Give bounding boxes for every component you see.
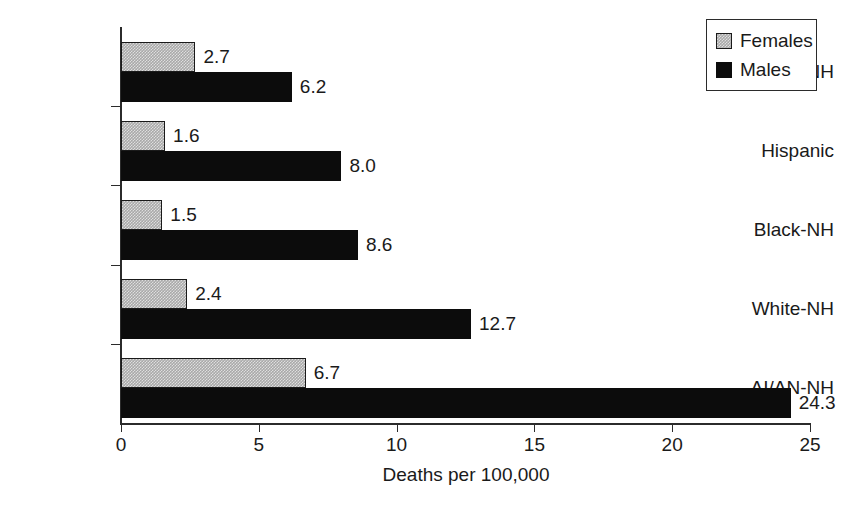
x-axis-title: Deaths per 100,000: [121, 464, 811, 486]
x-axis-tick: [810, 423, 811, 432]
bar-value-label: 8.0: [349, 155, 375, 177]
x-axis-tick: [259, 423, 260, 432]
bar-value-label: 6.7: [314, 362, 340, 384]
bar-value-label: 1.6: [173, 125, 199, 147]
category-label-white-nh: White-NH: [731, 298, 843, 320]
bar-males-white-nh[interactable]: [121, 309, 471, 339]
x-axis-tick: [121, 423, 122, 432]
bar-value-label: 8.6: [366, 234, 392, 256]
bar-females-a-pi-nh[interactable]: [121, 42, 195, 72]
legend-item-females[interactable]: Females: [716, 26, 816, 55]
x-axis-tick: [534, 423, 535, 432]
legend-label-males: Males: [740, 59, 791, 81]
black-swatch-icon: [716, 62, 732, 78]
y-axis-tick: [111, 106, 121, 107]
x-axis-tick: [672, 423, 673, 432]
y-axis-tick: [111, 344, 121, 345]
bar-value-label: 24.3: [799, 392, 836, 414]
category-label-black-nh: Black-NH: [731, 219, 843, 241]
bar-value-label: 12.7: [479, 313, 516, 335]
bar-males-black-nh[interactable]: [121, 230, 358, 260]
x-axis-tick-label: 10: [386, 434, 407, 456]
x-axis-tick-label: 25: [799, 434, 820, 456]
gray-swatch-icon: [716, 33, 732, 49]
bar-females-black-nh[interactable]: [121, 200, 162, 230]
bar-chart: A/PI-NH2.76.2Hispanic1.68.0Black-NH1.58.…: [0, 0, 843, 516]
x-axis-tick-label: 0: [116, 434, 127, 456]
bar-value-label: 6.2: [300, 76, 326, 98]
category-label-hispanic: Hispanic: [731, 140, 843, 162]
legend-item-males[interactable]: Males: [716, 55, 816, 84]
bar-males-a-pi-nh[interactable]: [121, 72, 292, 102]
bar-males-ai-an-nh[interactable]: [121, 388, 791, 418]
legend-label-females: Females: [740, 30, 813, 52]
y-axis-tick: [111, 265, 121, 266]
x-axis-tick: [397, 423, 398, 432]
bar-value-label: 2.4: [195, 283, 221, 305]
bar-females-hispanic[interactable]: [121, 121, 165, 151]
bar-value-label: 2.7: [203, 46, 229, 68]
x-axis-line: [120, 423, 811, 425]
bar-females-ai-an-nh[interactable]: [121, 358, 306, 388]
bar-males-hispanic[interactable]: [121, 151, 341, 181]
x-axis-tick-label: 20: [662, 434, 683, 456]
bar-females-white-nh[interactable]: [121, 279, 187, 309]
legend: Females Males: [706, 19, 817, 91]
bar-value-label: 1.5: [170, 204, 196, 226]
x-axis-tick-label: 15: [524, 434, 545, 456]
y-axis-tick: [111, 185, 121, 186]
x-axis-tick-label: 5: [254, 434, 265, 456]
